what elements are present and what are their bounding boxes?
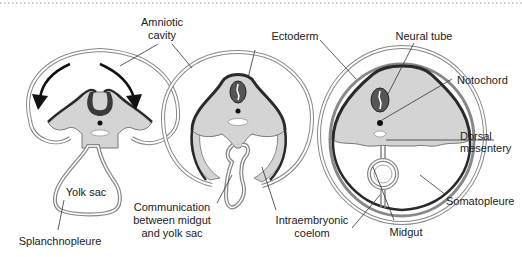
notochord-dot: [98, 121, 103, 126]
svg-text:cavity: cavity: [148, 29, 177, 41]
label-somatopleure: Somatopleure: [446, 195, 515, 207]
notochord-dot-3: [377, 120, 383, 126]
svg-text:mesentery: mesentery: [460, 142, 512, 154]
embryo-folding-diagram: Amniotic cavity Yolk sac Splanchnopleure…: [0, 0, 522, 257]
svg-text:and yolk sac: and yolk sac: [141, 227, 203, 239]
label-intraembryonic-coelom: Intraembryonic: [276, 214, 349, 226]
label-neural-tube: Neural tube: [396, 30, 453, 42]
label-dorsal-mesentery: Dorsal: [460, 130, 492, 142]
stage-2-section: [163, 52, 312, 207]
svg-text:coelom: coelom: [294, 227, 329, 239]
notochord-dot-2: [236, 109, 241, 114]
yolk-sac: [55, 146, 120, 215]
embryo-body-3: [333, 66, 470, 146]
label-yolk-sac: Yolk sac: [66, 186, 107, 198]
label-splanchnopleure: Splanchnopleure: [19, 235, 102, 247]
label-midgut: Midgut: [389, 226, 422, 238]
label-amniotic-cavity: Amniotic: [141, 16, 184, 28]
label-notochord: Notochord: [457, 74, 508, 86]
svg-text:between midgut: between midgut: [133, 214, 211, 226]
vitelline-duct: [226, 145, 248, 207]
label-ectoderm: Ectoderm: [271, 30, 318, 42]
label-communication: Communication: [134, 201, 210, 213]
